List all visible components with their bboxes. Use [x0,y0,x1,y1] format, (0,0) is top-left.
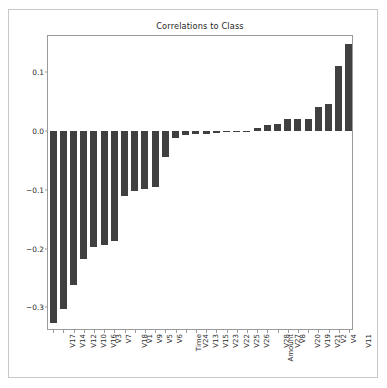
x-axis-tick-label: V11 [365,334,373,348]
x-axis-tick-label: V20 [314,334,322,348]
bar [284,119,291,131]
x-axis-tick-label: V19 [324,334,332,348]
matplotlib-figure: Correlations to Class 0.10.0−0.1−0.2−0.3… [0,0,387,388]
y-axis-tick-label: 0.0 [26,127,44,136]
bar [294,119,301,131]
bar [152,131,159,187]
bar [162,131,169,157]
bar [101,131,108,244]
y-axis-tick-mark [45,248,49,249]
x-axis-tick-label: V28 [283,334,291,348]
bar [325,104,332,131]
chart-axes: 0.10.0−0.1−0.2−0.3 [47,35,353,330]
x-axis-tick-label: V17 [69,334,77,348]
y-axis-tick-label: −0.2 [26,244,44,253]
chart-title: Correlations to Class [47,21,353,31]
bars-container: 0.10.0−0.1−0.2−0.3 [48,36,352,329]
x-axis-tick-label: V4 [350,334,358,343]
bar [70,131,77,284]
x-axis-tick-label: V2 [340,334,348,343]
x-axis-tick-label: V25 [252,334,260,348]
x-axis-tick-label: V23 [232,334,240,348]
bar [50,131,57,323]
bar [121,131,128,196]
bar [233,131,240,132]
x-axis-tick-label: V22 [242,334,250,348]
y-axis-tick-label: 0.1 [26,68,44,77]
bar [131,131,138,190]
x-axis-tick-label: V26 [263,334,271,348]
x-axis-tick-label: V13 [212,334,220,348]
bar [305,119,312,131]
y-axis-tick-mark [45,131,49,132]
x-axis-tick-label: V5 [166,334,174,343]
x-axis-tick-label: V1 [146,334,154,343]
x-axis-tick-label: V3 [115,334,123,343]
bar [213,131,220,133]
bar [254,128,261,132]
bar [315,107,322,131]
bar [264,125,271,131]
y-axis-tick-mark [45,72,49,73]
y-axis-tick-mark [45,189,49,190]
bar [80,131,87,259]
x-axis-tick-label: V9 [156,334,164,343]
x-axis-labels: V17V14V12V10V16V3V7V18V1V9V5V6TimeV24V13… [47,330,353,388]
x-axis-tick-label: V14 [79,334,87,348]
x-axis-tick-label: V8 [299,334,307,343]
bar [223,131,230,132]
bar [111,131,118,241]
x-axis-tick-label: V24 [201,334,209,348]
y-axis-tick-label: −0.1 [26,185,44,194]
x-axis-tick-label: V7 [126,334,134,343]
bar [182,131,189,135]
bar [90,131,97,247]
bar [274,124,281,132]
x-axis-tick-label: V10 [99,334,107,348]
bar [172,131,179,138]
bar [335,66,342,131]
bar [243,131,250,132]
bar [203,131,210,133]
bar [345,44,352,132]
bar [141,131,148,189]
x-axis-tick-label: V12 [89,334,97,348]
bar [60,131,67,309]
x-axis-tick-label: V15 [222,334,230,348]
x-axis-tick-label: V6 [177,334,185,343]
y-axis-tick-mark [45,307,49,308]
y-axis-tick-label: −0.3 [26,303,44,312]
bar [192,131,199,134]
